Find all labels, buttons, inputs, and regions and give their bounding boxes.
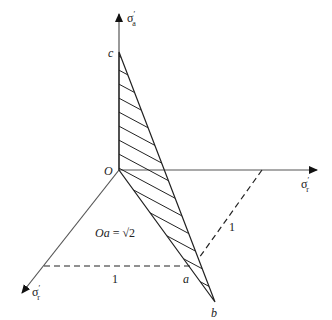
diagonal-axis-label: σ′r [32,284,40,302]
point-b-label: b [211,306,217,320]
origin-label: O [104,164,113,178]
vertical-axis-label: σ′a [127,10,136,28]
triangle-ocb [119,52,215,302]
point-a-label: a [183,272,189,286]
right-axis-label: σ′r [301,176,309,194]
stress-space-diagram: σ′a σ′r σ′r O c a b Oa = √2 1 1 [0,0,332,320]
diagonal-length-label: 1 [229,220,235,234]
oa-equation: Oa = √2 [95,226,135,240]
diagonal-dashed-line [199,170,262,258]
horizontal-length-label: 1 [112,272,118,286]
hatched-region [100,46,240,317]
point-c-label: c [108,46,114,60]
